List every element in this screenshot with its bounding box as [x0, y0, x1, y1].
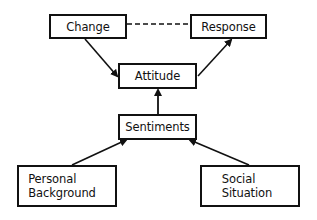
node-social-situation: Social Situation: [200, 165, 300, 207]
node-sentiments-label: Sentiments: [125, 120, 189, 134]
node-response: Response: [190, 14, 267, 39]
node-personal-background-line1: Personal: [28, 172, 76, 186]
node-attitude: Attitude: [118, 63, 197, 89]
node-change-label: Change: [66, 20, 109, 34]
arrow-personal-to-sentiments: [72, 140, 126, 165]
diagram-canvas: Change Response Attitude Sentiments Pers…: [0, 0, 317, 220]
node-social-situation-line2: Situation: [222, 186, 272, 200]
node-social-situation-label: Social Situation: [222, 172, 272, 200]
arrow-change-to-attitude: [85, 39, 117, 76]
node-response-label: Response: [201, 20, 255, 34]
node-personal-background: Personal Background: [17, 165, 117, 207]
node-social-situation-line1: Social: [222, 172, 256, 186]
node-sentiments: Sentiments: [118, 114, 197, 140]
node-personal-background-line2: Background: [28, 186, 96, 200]
arrow-attitude-to-response: [198, 40, 231, 76]
node-personal-background-label: Personal Background: [28, 172, 96, 200]
node-change: Change: [49, 14, 127, 39]
arrow-social-to-sentiments: [190, 140, 249, 165]
node-attitude-label: Attitude: [135, 69, 180, 83]
